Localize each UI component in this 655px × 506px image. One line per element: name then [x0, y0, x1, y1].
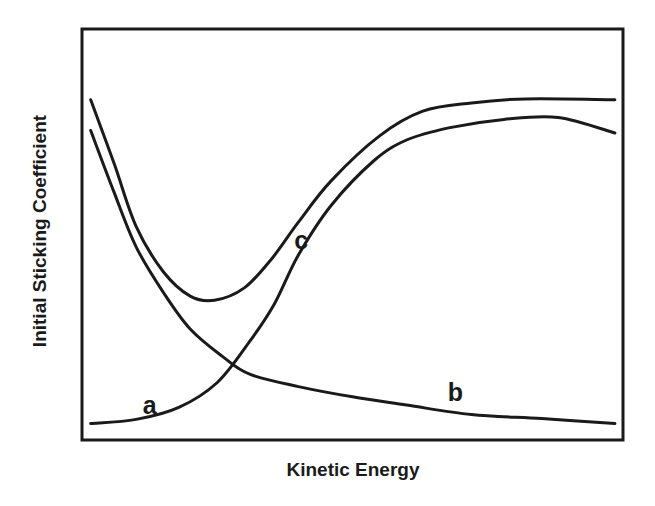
y-axis-label: Initial Sticking Coefficient — [29, 114, 50, 347]
curve-label-c: c — [294, 226, 308, 254]
curve-label-b: b — [448, 378, 463, 406]
curves-group — [91, 99, 615, 424]
curve-label-a: a — [143, 391, 158, 419]
curve-c — [91, 99, 615, 301]
chart: a b c Kinetic Energy Initial Sticking Co… — [0, 0, 655, 506]
plot-frame — [82, 29, 623, 440]
x-axis-label: Kinetic Energy — [286, 459, 419, 480]
curve-a — [91, 116, 615, 423]
